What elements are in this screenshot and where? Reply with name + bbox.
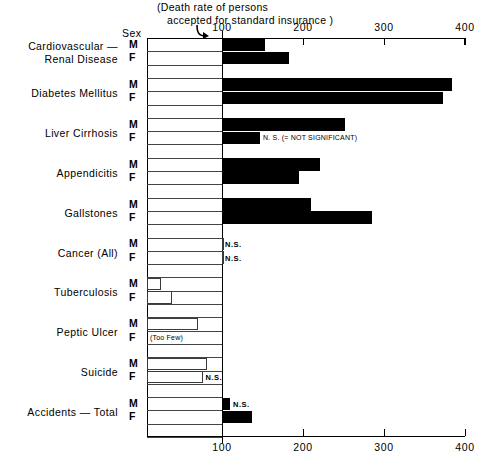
axis-tick-top-200 [303,38,304,45]
bar-5-f [222,251,224,264]
sex-label-f-6: F [129,291,136,303]
category-label-line-1: Appendicitis [57,167,118,180]
sex-label-f-7: F [129,331,136,343]
category-label-5: Cancer (All) [58,247,118,260]
category-label-line-1: Cardiovascular — [28,40,118,53]
category-label-1: Diabetes Mellitus [31,87,118,100]
bar-0-m [222,38,265,51]
sex-label-m-5: M [129,237,138,249]
sex-label-m-6: M [129,277,138,289]
category-label-line-1: Peptic Ulcer [57,326,118,339]
sex-label-f-4: F [129,211,136,223]
bar-2-m [222,118,345,131]
row-separator [147,51,222,52]
sex-label-m-9: M [129,397,138,409]
category-label-8: Suicide [81,366,118,379]
bar-6-f [147,291,172,304]
caption-line-1: (Death rate of persons [157,1,387,14]
bar-3-m [222,158,320,171]
row-separator [147,264,222,265]
axis-line-top [147,38,465,39]
bar-8-m [147,358,207,371]
sex-label-m-8: M [129,357,138,369]
sex-label-m-7: M [129,317,138,329]
row-separator [147,118,222,119]
row-separator [147,184,222,185]
row-separator [147,131,222,132]
axis-tick-bot-200 [303,429,304,436]
sex-label-f-0: F [129,51,136,63]
row-separator [147,424,222,425]
bar-8-f [147,371,203,384]
bar-9-m [222,398,230,411]
bar-note-5-f: N.S. [225,254,242,263]
sex-label-f-5: F [129,251,136,263]
row-separator [147,198,222,199]
sex-label-f-2: F [129,131,136,143]
bar-3-f [222,171,299,184]
bar-note-8-f: N.S. [206,373,223,382]
bar-1-f [222,92,443,105]
row-separator [147,224,222,225]
category-label-4: Gallstones [64,207,118,220]
axis-tick-label-bot-100: 100 [212,441,231,453]
axis-tick-label-top-100: 100 [212,21,231,33]
category-label-2: Liver Cirrhosis [45,127,118,140]
row-separator [147,158,222,159]
sex-label-f-9: F [129,410,136,422]
row-separator [147,144,222,145]
bar-2-f [222,132,260,145]
bar-note-5-m: N.S. [225,240,242,249]
row-separator [147,437,222,438]
row-separator [147,410,222,411]
sex-label-f-1: F [129,91,136,103]
row-separator [147,384,222,385]
bar-4-m [222,198,311,211]
row-separator [147,304,222,305]
category-label-0: Cardiovascular —Renal Disease [28,40,118,66]
bar-4-f [222,211,372,224]
row-separator [147,171,222,172]
sex-label-f-8: F [129,370,136,382]
row-separator [147,65,222,66]
bar-note-2-f: N. S. (= NOT SIGNIFICANT) [263,134,357,141]
row-separator [147,211,222,212]
row-separator [147,251,222,252]
axis-tick-top-400 [465,38,466,45]
category-label-line-1: Diabetes Mellitus [31,87,118,100]
sex-label-m-2: M [129,118,138,130]
category-label-9: Accidents — Total [27,406,118,419]
sex-label-m-4: M [129,198,138,210]
row-separator [147,105,222,106]
row-separator [147,238,222,239]
category-label-line-1: Liver Cirrhosis [45,127,118,140]
row-separator [147,78,222,79]
sex-label-m-1: M [129,78,138,90]
bar-9-f [222,411,252,424]
bar-0-f [222,52,289,65]
sex-label-m-3: M [129,158,138,170]
axis-tick-bot-300 [384,429,385,436]
axis-tick-label-top-300: 300 [374,21,393,33]
category-label-line-1: Accidents — Total [27,406,118,419]
category-label-6: Tuberculosis [54,286,118,299]
category-label-line-1: Cancer (All) [58,247,118,260]
category-label-3: Appendicitis [57,167,118,180]
axis-tick-top-300 [384,38,385,45]
axis-tick-label-bot-200: 200 [293,441,312,453]
bar-1-m [222,78,452,91]
axis-tick-label-top-400: 400 [455,21,474,33]
category-label-line-1: Tuberculosis [54,286,118,299]
category-label-line-1: Gallstones [64,207,118,220]
axis-tick-label-bot-300: 300 [374,441,393,453]
row-separator [147,344,222,345]
axis-tick-bot-400 [465,429,466,436]
category-label-7: Peptic Ulcer [57,326,118,339]
chart-root: (Death rate of persons accepted for stan… [0,0,477,465]
sex-label-f-3: F [129,171,136,183]
bar-7-m [147,318,198,331]
axis-tick-bot-100 [222,429,223,436]
row-separator [147,331,222,332]
axis-tick-label-bot-400: 400 [455,441,474,453]
category-label-line-1: Suicide [81,366,118,379]
